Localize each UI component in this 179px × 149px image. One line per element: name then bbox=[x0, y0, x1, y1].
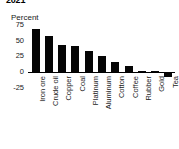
x-category-label: Platinum bbox=[92, 76, 100, 105]
chart-title: 2021 bbox=[6, 0, 25, 5]
y-tick-label: 25 bbox=[16, 52, 24, 60]
bar bbox=[125, 66, 133, 72]
bar bbox=[151, 71, 159, 72]
x-category-label: Gold bbox=[158, 76, 166, 92]
y-tick-label: 50 bbox=[16, 37, 24, 45]
bar bbox=[32, 29, 40, 72]
bar bbox=[98, 56, 106, 72]
x-category-label: Tea bbox=[172, 76, 179, 88]
bar bbox=[138, 71, 146, 72]
commodity-price-change-bar-chart: 2021 Percent 7550250-25 Iron oreCrude oi… bbox=[0, 0, 179, 149]
x-category-label: Aluminum bbox=[105, 76, 113, 109]
x-category-label: Crude oil bbox=[52, 76, 60, 106]
y-tick-label: -25 bbox=[13, 84, 24, 92]
x-category-label: Copper bbox=[65, 76, 73, 101]
x-category-label: Coal bbox=[79, 76, 87, 91]
y-tick-label: 75 bbox=[16, 21, 24, 29]
x-category-label: Coffee bbox=[132, 76, 140, 98]
bar bbox=[58, 45, 66, 72]
bar bbox=[111, 62, 119, 72]
x-category-label: Cotton bbox=[118, 76, 126, 98]
bar bbox=[45, 36, 53, 72]
bar bbox=[85, 51, 93, 72]
x-category-label: Rubber bbox=[145, 76, 153, 101]
x-axis-category-labels: Iron oreCrude oilCopperCoalPlatinumAlumi… bbox=[29, 76, 175, 149]
y-axis-tick-labels: 7550250-25 bbox=[0, 22, 27, 92]
bar bbox=[71, 46, 79, 72]
y-tick-label: 0 bbox=[20, 68, 24, 76]
x-category-label: Iron ore bbox=[39, 76, 47, 102]
